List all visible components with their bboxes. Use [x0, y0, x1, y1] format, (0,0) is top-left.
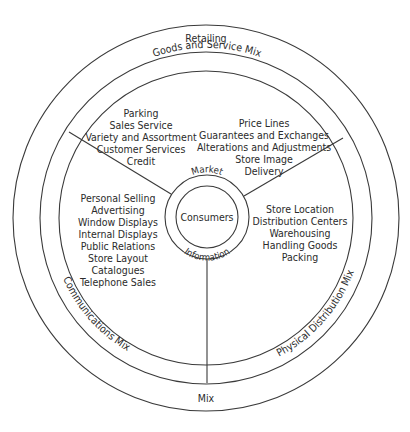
list-item: Window Displays [78, 216, 158, 228]
list-item: Store Location [266, 203, 334, 215]
list-item: Public Relations [81, 240, 155, 252]
list-item: Price Lines [239, 117, 290, 129]
list-item: Credit [127, 155, 156, 167]
list-item: Handling Goods [263, 239, 338, 251]
physical-distribution-list: Store Location Distribution Centers Ware… [253, 203, 348, 263]
list-item: Customer Services [97, 143, 186, 155]
list-item: Internal Displays [78, 228, 157, 240]
outer-label-mix: Mix [198, 392, 215, 404]
list-item: Parking [124, 107, 159, 119]
consumers-label: Consumers [180, 211, 233, 223]
retailing-mix-diagram: Retailing Mix Goods and Service Mix Comm… [0, 0, 410, 432]
list-item: Delivery [244, 165, 284, 177]
ring-label-physical-distribution-mix: Physical Distribution Mix [274, 268, 356, 359]
list-item: Distribution Centers [253, 215, 348, 227]
list-item: Personal Selling [81, 192, 156, 204]
list-item: Variety and Assortment [85, 131, 196, 143]
list-item: Guarantees and Exchanges [199, 129, 329, 141]
list-item: Sales Service [109, 119, 172, 131]
list-item: Packing [282, 251, 318, 263]
communications-list: Personal Selling Advertising Window Disp… [78, 192, 158, 288]
list-item: Store Image [235, 153, 293, 165]
list-item: Warehousing [269, 227, 330, 239]
list-item: Catalogues [91, 264, 144, 276]
ring-label-goods-service-mix: Goods and Service Mix [151, 38, 264, 59]
goods-service-list-left: Parking Sales Service Variety and Assort… [85, 107, 196, 167]
list-item: Store Layout [88, 252, 148, 264]
list-item: Telephone Sales [79, 276, 156, 288]
list-item: Alterations and Adjustments [197, 141, 331, 153]
list-item: Advertising [91, 204, 144, 216]
